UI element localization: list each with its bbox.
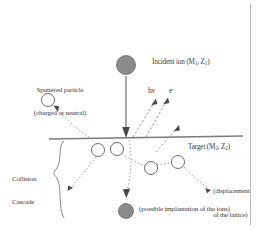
displacement-label: (displacement of the lattice) <box>213 172 250 229</box>
photon-emission-arrow-shaft <box>133 103 154 137</box>
displacement-label-line1: (displacement <box>213 187 250 195</box>
cascade-link-atom-b <box>157 163 173 165</box>
collision-cascade-label-line2: Cascade <box>12 199 36 207</box>
photon-emission-arrow-head <box>151 99 157 106</box>
cascade-branch-displacement <box>184 167 208 188</box>
lattice-atom-circle <box>145 162 158 175</box>
photon-label: hv <box>148 87 155 95</box>
ion-solid-interaction-figure: Incident ion (M1, Z1) Sputtered particle… <box>0 0 261 229</box>
target-label: Target (M2, Z2) <box>188 143 230 152</box>
collision-cascade-label: Collision Cascade <box>12 160 36 223</box>
cascade-link-atom-a <box>122 154 145 166</box>
incident-ion-circle <box>117 56 136 75</box>
implantation-label: (possible implantation of the ions) <box>139 206 230 214</box>
sputtered-particle-label-line1: Sputtered particle <box>18 87 102 95</box>
lattice-atom-circle <box>92 144 105 157</box>
electron-label: e- <box>169 87 174 95</box>
incident-ion-arrow-head <box>122 127 130 138</box>
recoil-to-surface-arrow-shaft <box>156 129 176 152</box>
cascade-branch-left-arrow-head <box>68 185 74 191</box>
sputtered-particle-label: Sputtered particle (charged or neutral) <box>18 71 102 134</box>
collision-cascade-brace <box>54 141 64 218</box>
sputtered-particle-label-line2: (charged or neutral) <box>18 110 102 118</box>
lattice-atom-circle <box>111 143 124 156</box>
recoil-to-surface-arrow-head <box>174 125 180 131</box>
collision-cascade-label-line1: Collision <box>12 176 36 184</box>
lattice-atom-circle <box>172 156 185 169</box>
cascade-branch-displacement-arrow-head <box>205 188 211 193</box>
cascade-branch-left <box>70 157 96 188</box>
electron-emission-arrow-shaft <box>146 102 166 137</box>
implanted-ion-circle <box>119 204 134 219</box>
cascade-branch-implantation-arrow-head <box>123 189 130 199</box>
incident-ion-label: Incident ion (M1, Z1) <box>152 58 210 67</box>
electron-emission-arrow-head <box>163 98 169 105</box>
cascade-branch-implantation <box>127 140 131 193</box>
